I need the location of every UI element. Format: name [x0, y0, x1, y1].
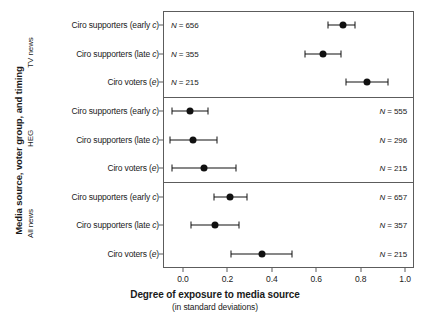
x-axis-title: Degree of exposure to media source [0, 289, 430, 300]
row-label: Ciro supporters (early c) [19, 192, 159, 202]
error-bar-cap-high [217, 136, 218, 143]
error-bar-cap-high [388, 79, 389, 86]
error-bar-cap-low [346, 79, 347, 86]
sample-size-label: N = 215 [171, 78, 199, 87]
error-bar-cap-low [172, 165, 173, 172]
y-axis-tick [159, 139, 163, 140]
x-axis-tick-label: 0.2 [207, 274, 247, 284]
facet-divider [163, 182, 414, 183]
forest-plot-figure: Media source, voter group, and timing De… [0, 0, 430, 321]
sample-size-label: N = 296 [379, 135, 407, 144]
x-axis-tick-label: 1.0 [385, 274, 425, 284]
y-axis-tick [159, 82, 163, 83]
sample-size-label: N = 656 [171, 21, 199, 30]
row-label: Ciro supporters (late c) [19, 49, 159, 59]
row-label: Ciro supporters (late c) [19, 220, 159, 230]
error-bar-cap-high [291, 250, 292, 257]
estimate-point [186, 107, 193, 114]
y-axis-tick [159, 168, 163, 169]
error-bar-cap-low [328, 22, 329, 29]
x-axis-tick-label: 0.6 [296, 274, 336, 284]
error-bar-cap-high [238, 222, 239, 229]
estimate-point [212, 222, 219, 229]
error-bar-cap-high [341, 50, 342, 57]
row-label: Ciro supporters (late c) [19, 135, 159, 145]
row-label: Ciro voters (e) [19, 163, 159, 173]
x-axis-tick [316, 268, 317, 272]
sample-size-label: N = 215 [379, 249, 407, 258]
row-label: Ciro voters (e) [19, 249, 159, 259]
error-bar-cap-high [235, 165, 236, 172]
row-label: Ciro supporters (early c) [19, 20, 159, 30]
sample-size-label: N = 355 [171, 49, 199, 58]
y-axis-tick [159, 110, 163, 111]
facet-divider [163, 97, 414, 98]
error-bar-cap-high [207, 107, 208, 114]
estimate-point [339, 22, 346, 29]
error-bar-cap-low [230, 250, 231, 257]
y-axis-title: Media source, voter group, and timing [13, 26, 24, 276]
estimate-point [258, 250, 265, 257]
y-axis-tick [159, 253, 163, 254]
sample-size-label: N = 357 [379, 221, 407, 230]
error-bar-cap-low [190, 222, 191, 229]
row-label: Ciro voters (e) [19, 77, 159, 87]
sample-size-label: N = 215 [379, 164, 407, 173]
x-axis-tick [405, 268, 406, 272]
x-axis-tick-label: 0.0 [163, 274, 203, 284]
error-bar-cap-high [355, 22, 356, 29]
sample-size-label: N = 555 [379, 106, 407, 115]
estimate-point [364, 79, 371, 86]
y-axis-tick [159, 53, 163, 54]
x-axis-tick-label: 0.4 [252, 274, 292, 284]
error-bar-cap-low [169, 136, 170, 143]
y-axis-tick [159, 25, 163, 26]
estimate-point [319, 50, 326, 57]
x-axis-tick [271, 268, 272, 272]
x-axis-tick [227, 268, 228, 272]
error-bar-cap-low [213, 193, 214, 200]
estimate-point [201, 165, 208, 172]
error-bar-cap-low [171, 107, 172, 114]
error-bar-cap-high [246, 193, 247, 200]
y-axis-tick [159, 225, 163, 226]
x-axis-tick [360, 268, 361, 272]
error-bar-cap-low [304, 50, 305, 57]
x-axis-tick-label: 0.8 [341, 274, 381, 284]
x-axis-subtitle: (in standard deviations) [0, 302, 430, 312]
y-axis-tick [159, 196, 163, 197]
sample-size-label: N = 657 [379, 192, 407, 201]
estimate-point [189, 136, 196, 143]
estimate-point [226, 193, 233, 200]
x-axis-tick [182, 268, 183, 272]
row-label: Ciro supporters (early c) [19, 106, 159, 116]
